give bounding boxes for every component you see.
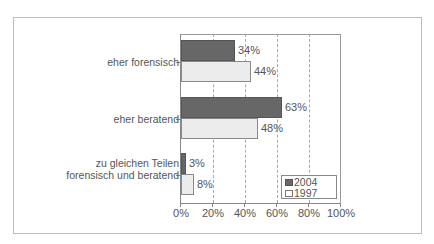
- bar-1997: [181, 118, 258, 139]
- category-label: eher beratend: [114, 113, 179, 125]
- legend-swatch-2004: [285, 179, 293, 186]
- bar-2004: [181, 153, 186, 174]
- legend-item-1997: 1997: [285, 188, 317, 199]
- bar-2004: [181, 97, 282, 118]
- value-label: 3%: [189, 157, 205, 169]
- value-label: 34%: [238, 44, 260, 56]
- x-tick-label: 20%: [202, 207, 224, 219]
- value-label: 8%: [197, 178, 213, 190]
- x-tick-label: 40%: [234, 207, 256, 219]
- x-axis: [180, 203, 341, 204]
- value-label: 63%: [285, 101, 307, 113]
- bar-2004: [181, 40, 235, 61]
- bar-1997: [181, 61, 251, 82]
- category-label: eher forensisch: [107, 56, 179, 68]
- x-tick-label: 100%: [327, 207, 355, 219]
- legend: 2004 1997: [281, 175, 337, 199]
- x-tick-label: 80%: [298, 207, 320, 219]
- x-tick-label: 0%: [173, 207, 189, 219]
- category-label: zu gleichen Teilenforensisch und beraten…: [66, 157, 179, 181]
- y-axis: [180, 34, 181, 204]
- bar-1997: [181, 174, 194, 195]
- x-tick-label: 60%: [266, 207, 288, 219]
- value-label: 48%: [261, 122, 283, 134]
- gridline: [277, 34, 278, 203]
- legend-label-1997: 1997: [294, 187, 317, 199]
- value-label: 44%: [254, 65, 276, 77]
- legend-swatch-1997: [285, 190, 293, 197]
